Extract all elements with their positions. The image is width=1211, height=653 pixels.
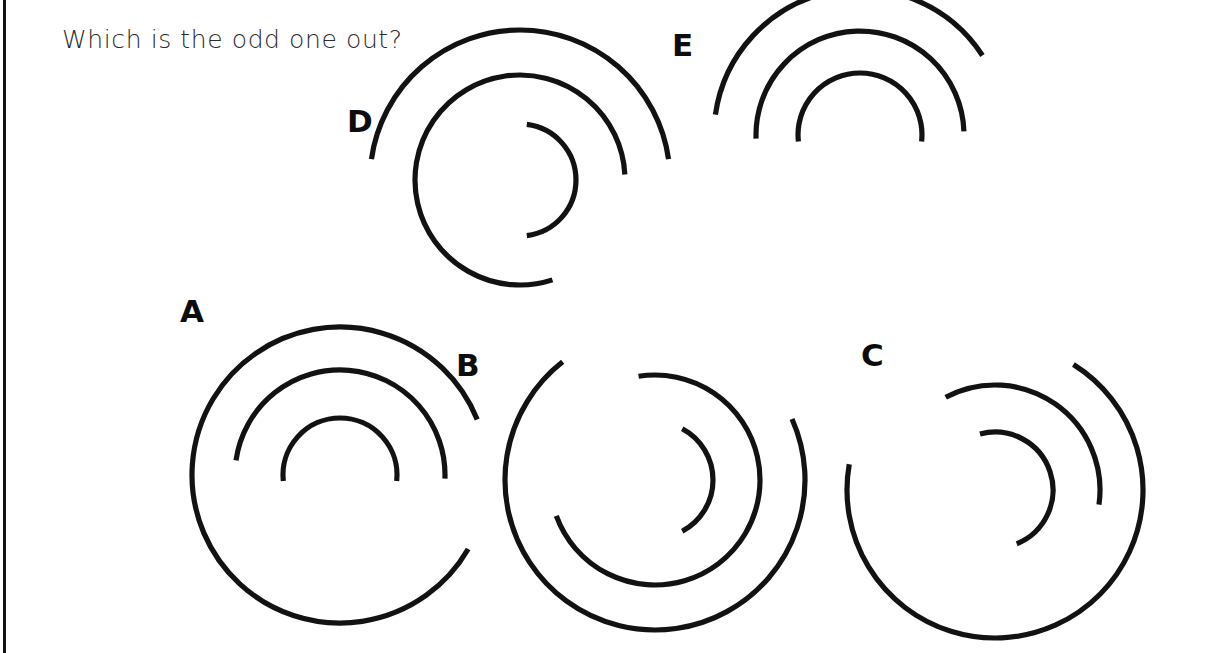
figure-d-middle-arc <box>415 75 625 285</box>
puzzle-page: Which is the odd one out? A B C D E <box>0 0 1211 653</box>
figure-a-inner-arc <box>283 418 397 481</box>
figure-b-inner-arc <box>682 429 713 531</box>
figure-b[interactable] <box>505 362 805 630</box>
figure-c[interactable] <box>847 364 1143 638</box>
figure-d[interactable] <box>371 30 668 285</box>
figure-label-e: E <box>672 30 693 61</box>
figure-label-c: C <box>861 340 884 371</box>
figure-label-d: D <box>347 106 373 137</box>
figure-d-inner-arc <box>527 124 576 235</box>
figure-c-inner-arc <box>980 432 1053 544</box>
figure-e-outer-arc <box>715 0 982 115</box>
figure-e-middle-arc <box>756 31 964 139</box>
figure-b-middle-arc <box>556 375 760 585</box>
figure-e-inner-arc <box>798 73 922 141</box>
figure-label-a: A <box>180 296 204 327</box>
figure-label-b: B <box>456 350 480 381</box>
figure-d-outer-arc <box>371 30 668 159</box>
figure-e[interactable] <box>715 0 982 141</box>
figure-a[interactable] <box>192 327 477 623</box>
figure-c-middle-arc <box>946 385 1100 505</box>
figure-a-middle-arc <box>236 370 445 479</box>
